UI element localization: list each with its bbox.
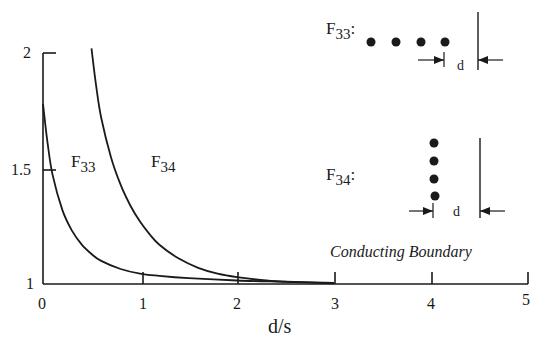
x-tick-label-1: 1 <box>139 296 147 312</box>
diagram-f34-distance-label: d <box>453 205 460 219</box>
x-tick-label-2: 2 <box>233 296 241 312</box>
charge-dot <box>430 139 439 148</box>
diagram-f33-colon: : <box>350 19 355 38</box>
y-tick-label-1: 1 <box>26 276 34 292</box>
y-tick-label-2: 2 <box>23 45 31 61</box>
curve-f34 <box>92 48 335 283</box>
x-axis-title: d/s <box>268 316 291 336</box>
charge-dot <box>431 192 440 201</box>
curve-label-f33-sub: 33 <box>80 159 95 175</box>
x-tick-label-4: 4 <box>427 296 435 312</box>
curve-label-f34: F34 <box>151 153 175 175</box>
charge-dot <box>417 38 426 47</box>
conducting-boundary-label: Conducting Boundary <box>330 244 472 260</box>
curve-label-f33: F33 <box>71 153 95 175</box>
diagram-f33-sub: 33 <box>335 26 350 42</box>
x-tick-label-5: 5 <box>522 292 530 308</box>
diagram-f34-sub: 34 <box>335 172 350 188</box>
chart-canvas <box>0 0 543 350</box>
charge-dot <box>430 175 439 184</box>
diagram-f33 <box>367 12 504 70</box>
charge-dot <box>392 38 401 47</box>
charge-dot <box>441 38 450 47</box>
charge-dot <box>367 38 376 47</box>
y-tick-label-1.5: 1.5 <box>11 162 31 178</box>
diagram-f33-distance-label: d <box>457 59 464 73</box>
x-tick-label-3: 3 <box>331 296 339 312</box>
diagram-f34-label: F34: <box>326 166 355 188</box>
charge-dot <box>430 157 439 166</box>
curve-f33 <box>43 104 334 283</box>
diagram-f34-colon: : <box>350 165 355 184</box>
curve-label-f34-sub: 34 <box>160 159 175 175</box>
diagram-f33-label: F33: <box>326 20 355 42</box>
x-tick-label-0: 0 <box>38 296 46 312</box>
